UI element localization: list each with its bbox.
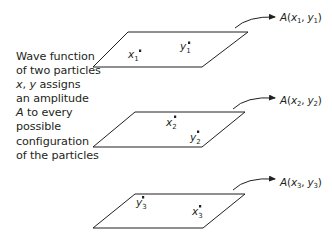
- point-label-y3: y3: [136, 196, 147, 211]
- caption-line: an amplitude: [16, 92, 126, 106]
- point-label-x3: x3: [192, 205, 203, 220]
- arrow-icon-1: [235, 17, 275, 28]
- amplitude-label-1: A(x1, y1): [280, 11, 322, 25]
- arrow-icon-3: [233, 179, 275, 190]
- point-label-y1: y1: [180, 40, 191, 55]
- caption-line: configuration: [16, 135, 126, 149]
- caption-var-a: A: [16, 106, 24, 119]
- arrow-icon-2: [233, 98, 275, 109]
- amplitude-label-2: A(x2, y2): [280, 94, 322, 108]
- caption-line: Wave function: [16, 50, 126, 64]
- caption-line: of the particles: [16, 149, 126, 163]
- caption-line: A to every: [16, 106, 126, 120]
- wave-function-caption: Wave function of two particles x, y assi…: [16, 50, 126, 163]
- caption-line: possible: [16, 120, 126, 134]
- point-label-x1: x1: [128, 48, 139, 63]
- configuration-plane-3: [93, 194, 245, 228]
- point-dot-x1: [139, 50, 141, 53]
- point-label-y2: y2: [190, 131, 201, 146]
- point-label-x2: x2: [166, 116, 177, 131]
- caption-line: of two particles: [16, 64, 126, 78]
- caption-line: x, y assigns: [16, 78, 126, 92]
- amplitude-label-3: A(x3, y3): [280, 176, 322, 190]
- caption-var-x: x: [16, 78, 23, 91]
- caption-var-y: y: [29, 78, 36, 91]
